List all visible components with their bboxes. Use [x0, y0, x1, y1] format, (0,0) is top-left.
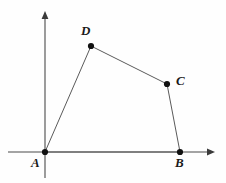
point-label-B: B	[175, 156, 184, 169]
geometry-figure: A B C D	[0, 0, 226, 183]
edge-D-A	[45, 46, 91, 152]
point-label-A: A	[31, 156, 40, 169]
point-C	[164, 81, 170, 87]
y-axis-arrowhead	[42, 11, 49, 19]
point-label-D: D	[81, 24, 90, 37]
x-axis-arrowhead	[207, 149, 215, 156]
vertex-dots	[42, 43, 183, 155]
quadrilateral-ABCD	[45, 46, 180, 152]
point-A	[42, 149, 48, 155]
point-label-C: C	[176, 74, 185, 87]
edge-C-D	[91, 46, 167, 84]
edge-B-C	[167, 84, 180, 152]
point-D	[88, 43, 94, 49]
